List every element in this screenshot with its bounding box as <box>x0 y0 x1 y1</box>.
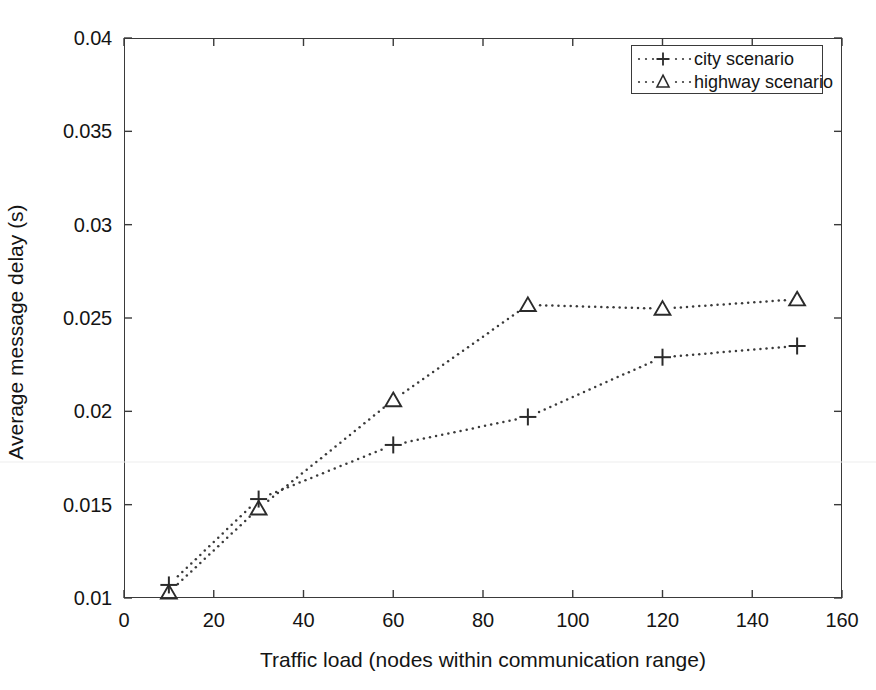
x-tick-label: 160 <box>807 610 876 630</box>
y-axis-title: Average message delay (s) <box>4 52 28 612</box>
x-tick-label: 40 <box>269 610 339 630</box>
x-axis-tick-labels: 020406080100120140160 <box>0 610 876 640</box>
plot-frame <box>124 38 842 598</box>
x-tick-label: 80 <box>448 610 518 630</box>
legend-entry-city: city scenario <box>632 47 824 71</box>
y-axis-title-wrapper: Average message delay (s) <box>4 52 32 612</box>
x-tick-label: 20 <box>179 610 249 630</box>
legend-entry-highway: highway scenario <box>632 70 824 94</box>
legend-label-city: city scenario <box>694 50 794 68</box>
chart-figure: 0.010.0150.020.0250.030.0350.04 02040608… <box>0 0 876 690</box>
x-tick-label: 120 <box>628 610 698 630</box>
y-tick-label: 0.04 <box>6 28 112 48</box>
legend-label-highway: highway scenario <box>694 73 833 91</box>
chart-legend: city scenario highway scenario <box>631 45 823 94</box>
x-tick-label: 60 <box>358 610 428 630</box>
triangle-marker-icon <box>632 70 694 94</box>
x-tick-label: 100 <box>538 610 608 630</box>
plus-marker-icon <box>632 47 694 71</box>
x-tick-label: 140 <box>717 610 787 630</box>
x-tick-label: 0 <box>89 610 159 630</box>
x-axis-title: Traffic load (nodes within communication… <box>124 648 842 672</box>
